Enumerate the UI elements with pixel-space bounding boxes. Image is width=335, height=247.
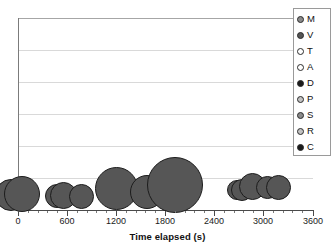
x-tick-label-3600: 3600 <box>293 216 333 227</box>
x-tick-minor <box>253 211 254 213</box>
x-tick-minor <box>283 211 284 213</box>
legend-item-label: D <box>307 78 314 88</box>
legend-item-label: P <box>307 94 313 104</box>
legend-item-label: A <box>307 62 313 72</box>
x-tick-minor <box>77 211 78 213</box>
legend-item-R[interactable]: R <box>294 123 330 139</box>
x-tick-minor <box>38 211 39 213</box>
legend-item-label: V <box>307 30 313 40</box>
bubble-M <box>4 176 40 212</box>
bubble-D <box>69 184 94 209</box>
gridline-3 <box>18 114 313 115</box>
legend-item-S[interactable]: S <box>294 107 330 123</box>
x-tick-minor <box>57 211 58 213</box>
legend-item-label: S <box>307 110 313 120</box>
x-tick-minor <box>28 211 29 213</box>
legend-marker-icon <box>297 32 304 39</box>
x-tick-minor <box>243 211 244 213</box>
x-tick-minor <box>106 211 107 213</box>
legend-item-T[interactable]: T <box>294 43 330 59</box>
bubble-C5 <box>266 175 291 200</box>
legend-item-M[interactable]: M <box>294 11 330 27</box>
legend-item-label: M <box>307 14 315 24</box>
x-tick-minor <box>185 211 186 213</box>
x-tick-minor <box>194 211 195 213</box>
x-tick-label-2400: 2400 <box>194 216 234 227</box>
legend-marker-icon <box>297 80 304 87</box>
gridline-4 <box>18 146 313 147</box>
legend-item-C[interactable]: C <box>294 139 330 155</box>
x-tick-minor <box>47 211 48 213</box>
x-tick-minor <box>126 211 127 213</box>
x-tick-minor <box>302 211 303 213</box>
legend-item-label: T <box>307 46 313 56</box>
x-axis-title: Time elapsed (s) <box>0 231 335 242</box>
gridline-top <box>18 18 313 19</box>
legend-item-A[interactable]: A <box>294 59 330 75</box>
x-tick-minor <box>273 211 274 213</box>
legend-marker-icon <box>297 16 304 23</box>
legend-marker-icon <box>297 144 304 151</box>
legend-marker-icon <box>297 96 304 103</box>
x-tick-minor <box>87 211 88 213</box>
legend-marker-icon <box>297 48 304 55</box>
x-tick-minor <box>204 211 205 213</box>
x-tick-minor <box>155 211 156 213</box>
legend-item-P[interactable]: P <box>294 91 330 107</box>
x-tick-minor <box>145 211 146 213</box>
gridline-1 <box>18 50 313 51</box>
legend-item-label: R <box>307 126 314 136</box>
x-tick-minor <box>175 211 176 213</box>
x-tick-label-1800: 1800 <box>145 216 185 227</box>
bubble-R <box>147 157 203 213</box>
legend-marker-icon <box>297 112 304 119</box>
x-tick-minor <box>136 211 137 213</box>
x-tick-minor <box>96 211 97 213</box>
legend-marker-icon <box>297 64 304 71</box>
x-tick-label-3000: 3000 <box>243 216 283 227</box>
x-tick-minor <box>224 211 225 213</box>
legend: M V T A D P S R <box>293 8 331 156</box>
x-tick-label-600: 600 <box>47 216 87 227</box>
legend-item-label: C <box>307 142 314 152</box>
legend-item-V[interactable]: V <box>294 27 330 43</box>
x-tick-minor <box>234 211 235 213</box>
legend-marker-icon <box>297 128 304 135</box>
x-tick-label-1200: 1200 <box>96 216 136 227</box>
x-tick-label-0: 0 <box>0 216 38 227</box>
gridline-2 <box>18 82 313 83</box>
x-tick-minor <box>292 211 293 213</box>
bubble-chart: 0 600 1200 1800 2400 3000 3600 Time elap… <box>0 0 335 247</box>
legend-item-D[interactable]: D <box>294 75 330 91</box>
